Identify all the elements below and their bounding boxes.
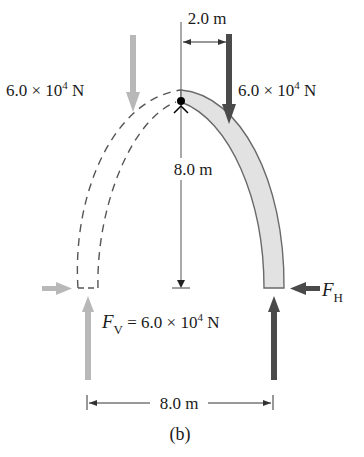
height-dimension-label: 8.0 m [174,160,213,179]
arch-free-body-diagram: 2.0 m 8.0 m 6.0 × 104 N 6.0 × 104 N [0,0,364,457]
arch-right-half [181,90,284,288]
left-applied-load-arrow [126,35,140,112]
horizontal-force-label: FH [321,279,343,305]
left-vertical-reaction-arrow [82,296,94,380]
height-dimension: 8.0 m [164,150,222,288]
right-horizontal-reaction-arrow [290,282,320,295]
base-dimension-label: 8.0 m [160,394,199,413]
top-dimension-label: 2.0 m [188,9,227,28]
figure-caption: (b) [170,424,191,445]
base-dimension: 8.0 m [87,394,273,413]
ghost-arch-left [77,90,181,288]
right-vertical-reaction-arrow [268,296,280,380]
right-load-label: 6.0 × 104 N [238,79,316,100]
left-horizontal-reaction-arrow [42,282,72,295]
left-load-label: 6.0 × 104 N [6,79,84,100]
vertical-force-label: FV = 6.0 × 104 N [101,311,219,337]
